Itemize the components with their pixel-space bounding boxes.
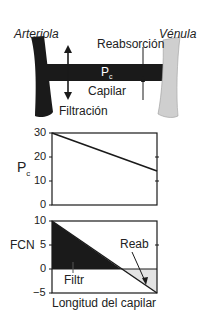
filtration-area-label: Filtr (64, 274, 84, 286)
fcn-tick-5: 5 (40, 239, 46, 250)
reabsorption-label: Reabsorción (97, 38, 164, 50)
pc-line (52, 133, 157, 171)
pc-tick-30: 30 (34, 127, 46, 138)
reabsorption-area-label: Reab (120, 238, 149, 250)
pc-tick-0: 0 (40, 199, 46, 210)
arteriole-label: Arteriola (14, 28, 59, 40)
filtration-label: Filtración (59, 105, 108, 117)
fcn-axis-label: FCN (10, 239, 35, 251)
fcn-tick-10: 10 (34, 215, 46, 226)
x-axis-label: Longitud del capilar (52, 297, 156, 309)
fcn-tick-0: 0 (40, 263, 46, 274)
fcn-tick-neg5: −5 (33, 287, 46, 298)
capillary-pressure-label: Pc (101, 66, 113, 80)
pc-tick-10: 10 (34, 175, 46, 186)
pc-chart (49, 133, 159, 205)
pc-axis-label: Pc (17, 160, 30, 178)
capillary-label: Capilar (88, 85, 126, 97)
pc-tick-20: 20 (34, 151, 46, 162)
venule-label: Vénula (159, 28, 196, 40)
